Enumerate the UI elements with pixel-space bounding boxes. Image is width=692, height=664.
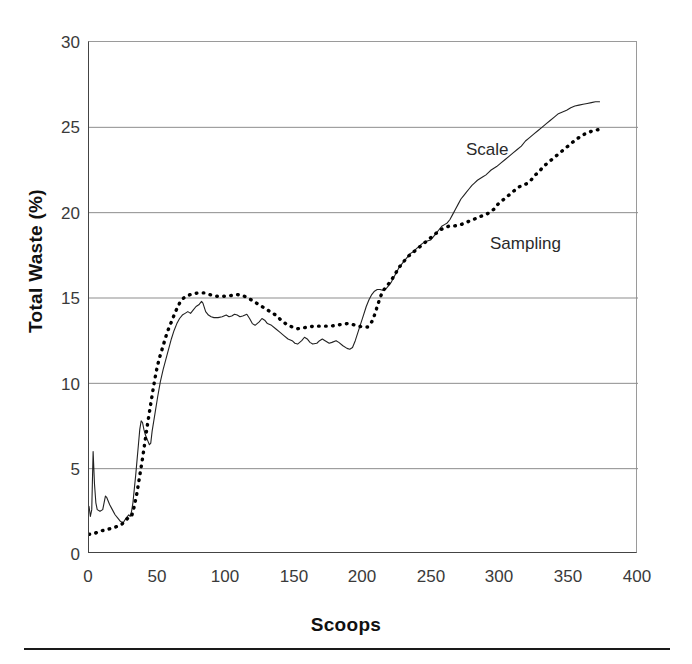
bottom-divider (24, 648, 670, 650)
chart-canvas (89, 42, 638, 554)
y-tick-label: 0 (38, 545, 80, 565)
x-tick-label: 50 (127, 567, 187, 587)
x-tick-label: 250 (401, 567, 461, 587)
y-tick-label: 25 (38, 118, 80, 138)
plot-area (88, 41, 637, 553)
x-tick-label: 100 (195, 567, 255, 587)
y-axis-title: Total Waste (%) (25, 141, 47, 381)
x-tick-label: 200 (332, 567, 392, 587)
x-tick-label: 150 (264, 567, 324, 587)
y-tick-label: 30 (38, 33, 80, 53)
series-label-scale: Scale (466, 140, 509, 160)
x-tick-label: 350 (538, 567, 598, 587)
chart-figure: 0 5 10 15 20 25 30 0 50 100 150 200 250 … (0, 0, 692, 664)
series-line-sampling (89, 129, 602, 534)
x-tick-label: 0 (58, 567, 118, 587)
gridlines (89, 127, 638, 468)
x-axis-title: Scoops (0, 614, 692, 636)
x-tick-label: 300 (469, 567, 529, 587)
y-tick-label: 5 (38, 460, 80, 480)
series-line-scale (89, 102, 600, 523)
series-label-sampling: Sampling (490, 234, 561, 254)
x-tick-label: 400 (607, 567, 667, 587)
